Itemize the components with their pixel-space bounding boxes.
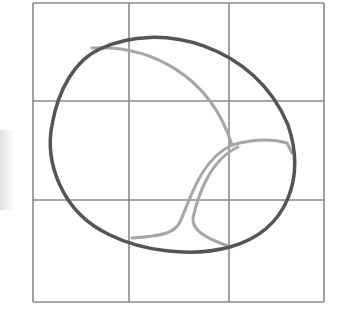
seam-line [232, 140, 287, 145]
grid [33, 3, 324, 302]
seam-line [193, 147, 238, 246]
seam-lines [92, 48, 292, 246]
seam-line [132, 145, 232, 238]
seam-line [287, 143, 292, 153]
ball-outline [50, 37, 294, 252]
ball-drawing-diagram [0, 0, 342, 324]
seam-line [92, 48, 232, 145]
